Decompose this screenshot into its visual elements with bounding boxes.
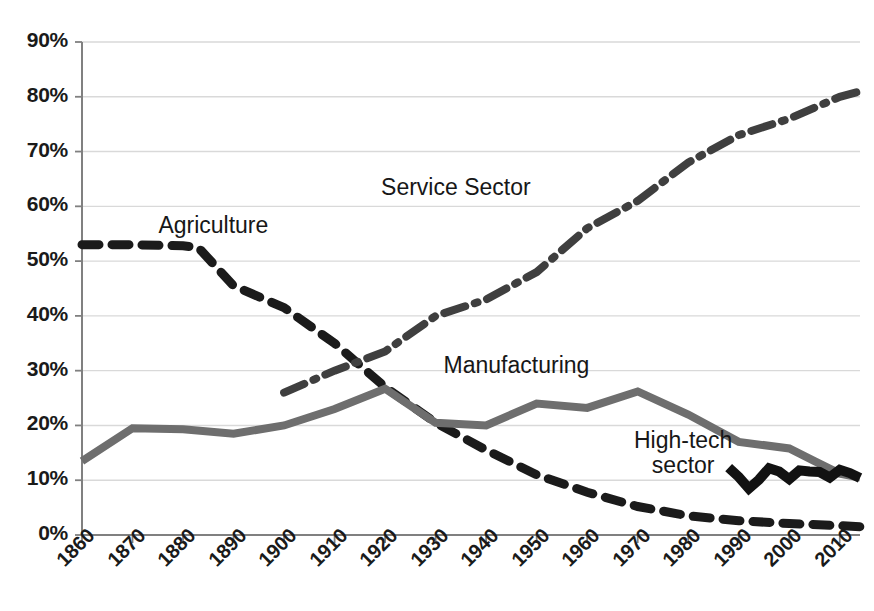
chart-plot-area — [0, 0, 874, 611]
series-label-service-sector: Service Sector — [381, 174, 531, 201]
chart-container: 90%80%70%60%50%40%30%20%10%0% 1860187018… — [0, 0, 874, 611]
y-tick-label: 10% — [0, 466, 68, 490]
y-tick-label: 0% — [0, 521, 68, 545]
y-tick-label: 70% — [0, 138, 68, 162]
y-tick-label: 20% — [0, 411, 68, 435]
series-line-service-sector — [284, 91, 860, 392]
series-line-high-tech-sector — [729, 468, 860, 489]
y-tick-label: 90% — [0, 28, 68, 52]
series-label-high-tech-line-1: High-tech — [634, 428, 732, 454]
series-label-high-tech-sector: High-tech sector — [634, 428, 732, 480]
y-tick-label: 40% — [0, 302, 68, 326]
axis-lines-group — [82, 42, 860, 535]
y-tick-label: 30% — [0, 357, 68, 381]
series-label-manufacturing: Manufacturing — [444, 352, 590, 379]
series-label-agriculture: Agriculture — [158, 212, 268, 239]
y-tick-label: 50% — [0, 247, 68, 271]
data-series-group — [82, 91, 860, 526]
series-label-high-tech-line-2: sector — [634, 453, 732, 479]
y-tick-label: 80% — [0, 83, 68, 107]
y-tick-label: 60% — [0, 192, 68, 216]
gridlines-group — [82, 42, 860, 480]
y-tick-marks-group — [75, 42, 82, 535]
series-line-manufacturing — [82, 389, 860, 478]
